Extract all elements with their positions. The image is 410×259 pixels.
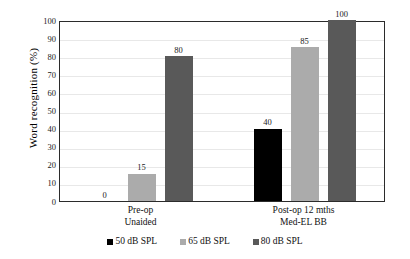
bar-value-label: 100 <box>328 10 356 19</box>
x-axis-category-labels: Pre-opUnaidedPost-op 12 mthsMed-EL BB <box>59 205 385 235</box>
plot-area: 015804085100 <box>59 21 385 202</box>
category-label-line1: Pre-op <box>59 205 222 217</box>
bar-value-label: 40 <box>254 118 282 127</box>
y-tick-label: 20 <box>26 161 56 170</box>
legend-label: 65 dB SPL <box>188 236 230 247</box>
y-tick-label: 100 <box>26 17 56 26</box>
y-tick-label: 50 <box>26 107 56 116</box>
legend-label: 50 dB SPL <box>115 236 157 247</box>
bar <box>254 129 282 201</box>
y-axis-tick-labels: 1009080706050403020100 <box>26 16 56 206</box>
bars-layer: 015804085100 <box>60 22 384 201</box>
y-tick-label: 70 <box>26 71 56 80</box>
legend-swatch-icon <box>180 239 186 245</box>
legend-item[interactable]: 50 dB SPL <box>107 236 157 247</box>
y-tick-label: 10 <box>26 179 56 188</box>
category-label-line1: Post-op 12 mths <box>222 205 385 217</box>
y-tick-label: 80 <box>26 53 56 62</box>
legend-item[interactable]: 80 dB SPL <box>253 236 303 247</box>
legend-swatch-icon <box>107 239 113 245</box>
bar <box>165 56 193 201</box>
y-tick-label: 30 <box>26 143 56 152</box>
y-tick-label: 0 <box>26 198 56 207</box>
bar <box>128 174 156 201</box>
category-label: Pre-opUnaided <box>59 205 222 228</box>
bar-value-label: 85 <box>291 37 319 46</box>
y-tick-label: 60 <box>26 89 56 98</box>
bar-value-label: 0 <box>91 191 119 200</box>
bar-chart: Word recognition (%) 1009080706050403020… <box>0 0 410 259</box>
legend-swatch-icon <box>253 239 259 245</box>
bar <box>291 47 319 201</box>
category-label-line2: Unaided <box>59 217 222 229</box>
bar <box>328 20 356 201</box>
bar-value-label: 15 <box>128 163 156 172</box>
bar-value-label: 80 <box>165 46 193 55</box>
category-label: Post-op 12 mthsMed-EL BB <box>222 205 385 228</box>
y-tick-label: 40 <box>26 125 56 134</box>
y-tick-label: 90 <box>26 35 56 44</box>
category-label-line2: Med-EL BB <box>222 217 385 229</box>
legend-label: 80 dB SPL <box>261 236 303 247</box>
legend-item[interactable]: 65 dB SPL <box>180 236 230 247</box>
chart-legend: 50 dB SPL65 dB SPL80 dB SPL <box>0 236 410 247</box>
